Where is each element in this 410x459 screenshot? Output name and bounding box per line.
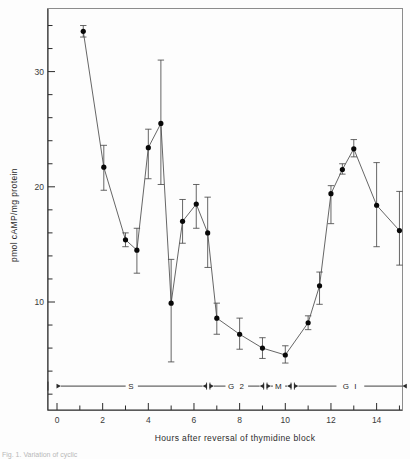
data-point (146, 145, 151, 150)
x-tick-label: 14 (372, 415, 382, 425)
data-point (101, 165, 106, 170)
data-point (158, 121, 163, 126)
data-point (306, 320, 311, 325)
camp-cell-cycle-chart: 102030 02468101214 SG 2MG I Hours after … (0, 0, 410, 459)
y-tick-label: 20 (35, 182, 45, 192)
figure-caption: Fig. 1. Variation of cyclic (2, 451, 78, 459)
data-point (374, 203, 379, 208)
y-tick-label: 30 (35, 67, 45, 77)
data-point (169, 301, 174, 306)
x-tick-label: 0 (55, 415, 60, 425)
data-point (328, 191, 333, 196)
data-point (340, 167, 345, 172)
data-point (237, 332, 242, 337)
x-tick-label: 12 (326, 415, 336, 425)
data-point (214, 316, 219, 321)
x-tick-label: 8 (237, 415, 242, 425)
x-axis-title: Hours after reversal of thymidine block (155, 433, 316, 443)
y-tick-label: 10 (35, 297, 45, 307)
figure-container: 102030 02468101214 SG 2MG I Hours after … (0, 0, 410, 459)
x-tick-label: 6 (192, 415, 197, 425)
data-point (260, 345, 265, 350)
data-point (180, 219, 185, 224)
data-point (351, 146, 356, 151)
data-point (205, 230, 210, 235)
data-point (397, 228, 402, 233)
phase-label: G I (343, 382, 358, 391)
data-point (134, 248, 139, 253)
x-tick-label: 4 (146, 415, 151, 425)
data-point (81, 29, 86, 34)
data-point (283, 352, 288, 357)
y-axis-title: pmol cAMP/mg protein (9, 168, 19, 262)
x-tick-label: 10 (281, 415, 291, 425)
x-tick-label: 2 (100, 415, 105, 425)
phase-label: G 2 (228, 382, 246, 391)
data-point (123, 237, 128, 242)
data-point (317, 283, 322, 288)
phase-label: M (275, 382, 283, 391)
phase-label: S (128, 382, 135, 391)
data-point (194, 201, 199, 206)
